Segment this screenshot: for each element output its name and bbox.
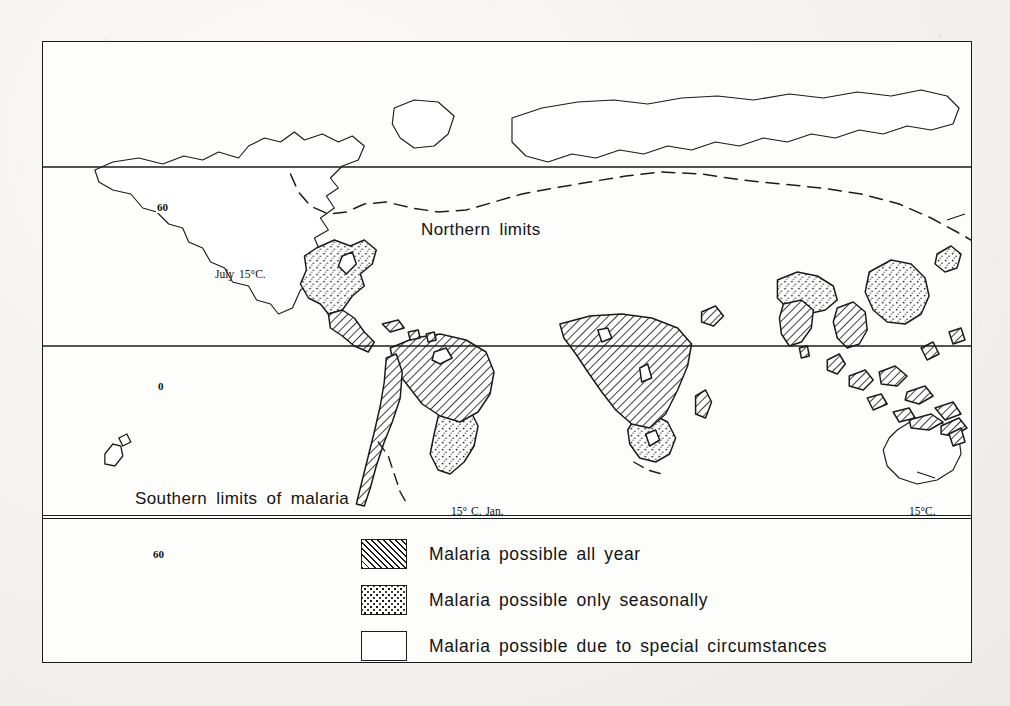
world-map-panel: Northern limits Southern limits of malar… (43, 42, 971, 515)
map-legend-divider (43, 515, 971, 519)
swatch-stipple-icon (361, 585, 407, 615)
legend-item-seasonal: Malaria possible only seasonally (361, 582, 971, 618)
legend-label-seasonal: Malaria possible only seasonally (429, 590, 708, 611)
legend-item-special: Malaria possible due to special circumst… (361, 628, 971, 664)
world-map-drawing (43, 42, 971, 515)
swatch-hatch-icon (361, 539, 407, 569)
latitude-tick-60-north: 60 (156, 202, 169, 213)
legend-label-special: Malaria possible due to special circumst… (429, 636, 827, 657)
legend-item-all-year: Malaria possible all year (361, 536, 971, 572)
legend-label-all-year: Malaria possible all year (429, 544, 641, 565)
figure-frame: Northern limits Southern limits of malar… (42, 41, 972, 663)
map-legend: Malaria possible all year Malaria possib… (43, 520, 971, 664)
swatch-blank-icon (361, 631, 407, 661)
latitude-tick-equator: 0 (157, 381, 165, 392)
